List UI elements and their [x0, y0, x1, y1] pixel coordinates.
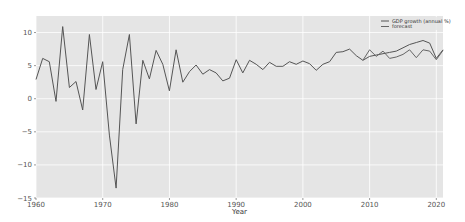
y-axis-ticks: 1050−5−10−15 — [17, 29, 36, 202]
x-axis-label: Year — [231, 208, 247, 216]
y-tick-label: 0 — [28, 95, 32, 103]
y-tick-label: −10 — [17, 161, 32, 169]
plot-area — [36, 16, 443, 198]
y-tick-label: −15 — [17, 195, 32, 203]
x-tick-label: 2000 — [294, 201, 312, 209]
x-tick-label: 2010 — [361, 201, 379, 209]
x-tick-label: 1980 — [161, 201, 179, 209]
x-tick-label: 2020 — [427, 201, 445, 209]
x-tick-label: 1970 — [94, 201, 112, 209]
legend-label-forecast: forecast — [392, 23, 412, 29]
y-tick-label: −5 — [22, 128, 32, 136]
legend: GDP growth (annual %) forecast — [378, 17, 451, 30]
y-tick-label: 10 — [23, 29, 32, 37]
y-tick-label: 5 — [28, 62, 32, 70]
gdp-growth-chart: 1960197019801990200020102020 1050−5−10−1… — [0, 0, 465, 222]
